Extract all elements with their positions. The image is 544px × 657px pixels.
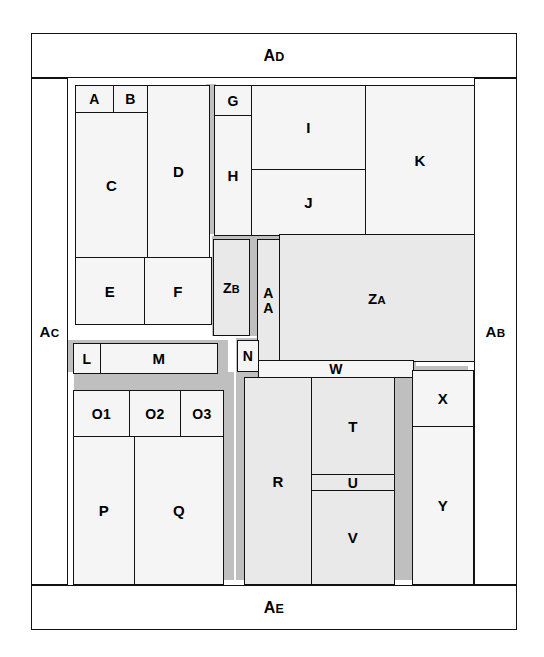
region-T-label: T: [348, 419, 357, 434]
region-P-label: P: [99, 503, 109, 518]
region-C[interactable]: C: [75, 112, 148, 258]
region-F-label: F: [173, 284, 182, 299]
region-H-label: H: [227, 168, 238, 183]
region-W-label: W: [329, 362, 343, 376]
region-AB-label: AB: [486, 324, 506, 339]
region-Q[interactable]: Q: [134, 436, 224, 585]
region-ZB[interactable]: ZB: [213, 239, 250, 336]
region-Y-label: Y: [438, 498, 448, 513]
region-I-label: I: [306, 120, 310, 135]
region-U[interactable]: U: [311, 474, 395, 491]
region-K[interactable]: K: [365, 85, 475, 236]
region-AA-label: AA: [263, 286, 273, 315]
region-AC[interactable]: AC: [31, 78, 68, 585]
region-I[interactable]: I: [251, 85, 366, 170]
region-E[interactable]: E: [75, 257, 145, 325]
region-M[interactable]: M: [100, 343, 218, 374]
region-B[interactable]: B: [113, 85, 148, 113]
region-J[interactable]: J: [251, 169, 366, 236]
region-N[interactable]: N: [237, 340, 259, 372]
region-Q-label: Q: [173, 503, 185, 518]
region-M-label: M: [153, 351, 166, 366]
region-L[interactable]: L: [73, 343, 101, 374]
region-V[interactable]: V: [311, 490, 395, 585]
region-AE[interactable]: AE: [31, 585, 517, 630]
diagram-canvas: AD AE AC AB A B C D E F G H: [0, 0, 544, 657]
region-X[interactable]: X: [412, 370, 474, 427]
region-AE-label: AE: [264, 600, 284, 616]
region-O3-label: O3: [192, 407, 211, 421]
region-AD[interactable]: AD: [31, 33, 517, 78]
region-O2[interactable]: O2: [129, 390, 181, 437]
region-L-label: L: [83, 352, 92, 366]
region-AD-label: AD: [263, 48, 284, 64]
region-O3[interactable]: O3: [180, 390, 224, 437]
region-D-label: D: [173, 164, 184, 179]
region-G-label: G: [227, 94, 238, 108]
region-W[interactable]: W: [258, 360, 414, 378]
region-J-label: J: [304, 195, 313, 210]
region-X-label: X: [438, 391, 448, 406]
region-AA[interactable]: AA: [257, 239, 280, 362]
region-P[interactable]: P: [73, 436, 135, 585]
region-R[interactable]: R: [244, 377, 312, 585]
region-F[interactable]: F: [144, 257, 212, 325]
region-O2-label: O2: [145, 407, 164, 421]
region-Y[interactable]: Y: [412, 426, 474, 585]
region-AC-label: AC: [40, 324, 60, 339]
region-G[interactable]: G: [214, 85, 252, 116]
region-T[interactable]: T: [311, 377, 395, 475]
region-ZB-label: ZB: [223, 281, 240, 295]
region-C-label: C: [106, 178, 117, 193]
region-A-label: A: [89, 92, 99, 106]
region-A[interactable]: A: [75, 85, 114, 113]
region-E-label: E: [105, 284, 115, 299]
region-K-label: K: [414, 153, 425, 168]
region-ZA[interactable]: ZA: [279, 234, 475, 362]
region-O1[interactable]: O1: [73, 390, 130, 437]
region-O1-label: O1: [92, 407, 111, 421]
region-U-label: U: [348, 476, 358, 490]
region-B-label: B: [125, 92, 135, 106]
region-N-label: N: [243, 349, 253, 363]
region-AB[interactable]: AB: [474, 78, 517, 585]
region-R-label: R: [272, 474, 283, 489]
region-V-label: V: [348, 530, 358, 545]
region-D[interactable]: D: [147, 85, 210, 258]
region-ZA-label: ZA: [368, 291, 386, 306]
region-H[interactable]: H: [214, 115, 252, 236]
